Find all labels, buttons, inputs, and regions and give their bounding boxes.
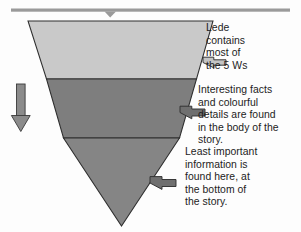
top-horizontal-rule	[11, 9, 290, 18]
inverted-pyramid-diagram: Lede contains most of the 5 Ws Interesti…	[0, 0, 301, 232]
callout-text-lede: Lede contains most of the 5 Ws	[206, 22, 298, 72]
left-arrow-tail-icon	[150, 177, 176, 190]
pyramid-band-lede	[28, 21, 213, 79]
downward-flow-arrow-icon	[11, 84, 30, 132]
pyramid-band-body	[47, 79, 197, 138]
callout-text-tail: Least important information is found her…	[185, 146, 297, 209]
callout-text-body: Interesting facts and colourful details …	[198, 84, 301, 147]
